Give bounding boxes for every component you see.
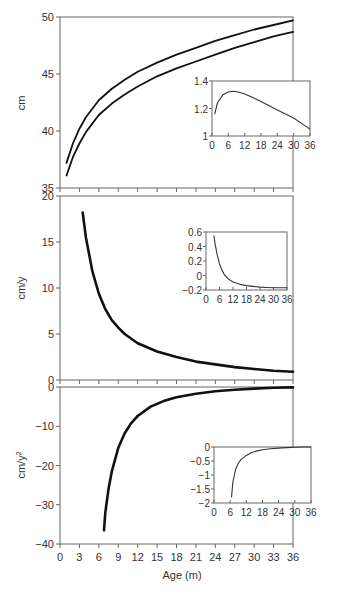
inset-x-tick-label: 6	[227, 507, 233, 518]
inset-y-tick-label: −2	[199, 498, 211, 509]
x-tick-label: 18	[170, 551, 182, 563]
x-tick-label: 6	[96, 551, 102, 563]
inset-x-tick-label: 36	[305, 507, 317, 518]
inset-y-tick-label: 0.2	[188, 256, 202, 267]
inset-y-tick-label: 0	[196, 271, 202, 282]
x-tick-label: 27	[229, 551, 241, 563]
y-tick-label: 50	[42, 11, 54, 23]
y-tick-label: 45	[42, 68, 54, 80]
y-tick-label: 0	[48, 381, 54, 393]
x-tick-label: 24	[209, 551, 221, 563]
x-tick-label: 0	[57, 551, 63, 563]
y-tick-label: −40	[35, 538, 54, 550]
inset-x-tick-label: 18	[255, 140, 267, 151]
inset-x-tick-label: 36	[304, 140, 316, 151]
inset-x-tick-label: 6	[217, 294, 223, 305]
inset-x-tick-label: 36	[281, 294, 293, 305]
x-tick-label: 12	[132, 551, 144, 563]
inset-y-tick-label: 0.4	[188, 242, 202, 253]
x-tick-label: 33	[267, 551, 279, 563]
inset-y-tick-label: −1	[199, 470, 211, 481]
inset-x-tick-label: 24	[254, 294, 266, 305]
inset-y-tick-label: 0.6	[188, 227, 202, 238]
inset-y-tick-label: 1.2	[194, 104, 208, 115]
inset-frame	[212, 81, 310, 136]
inset-y-tick-label: 1.4	[194, 76, 208, 87]
y-tick-label: 10	[42, 282, 54, 294]
middle-ylabel: cm/y	[15, 276, 27, 300]
x-tick-label: 36	[287, 551, 299, 563]
generated-chart-content: 3540455011.21.406121824303605101520−0.20…	[35, 11, 317, 563]
inset-y-tick-label: −1.5	[190, 484, 210, 495]
inset-frame	[206, 232, 287, 290]
x-tick-label: 9	[115, 551, 121, 563]
inset-x-tick-label: 6	[226, 140, 232, 151]
inset-frame	[214, 447, 311, 503]
x-tick-label: 15	[151, 551, 163, 563]
inset-x-tick-label: 0	[211, 507, 217, 518]
inset-x-tick-label: 12	[239, 140, 251, 151]
x-tick-label: 30	[248, 551, 260, 563]
inset-y-tick-label: 1	[202, 131, 208, 142]
inset-x-tick-label: 24	[272, 140, 284, 151]
figure: cm cm/y cm/y2 Age (m) 3540455011.21.4061…	[0, 0, 356, 596]
y-tick-label: −20	[35, 460, 54, 472]
inset-x-tick-label: 0	[209, 140, 215, 151]
bottom-ylabel: cm/y2	[15, 451, 27, 478]
inset-x-tick-label: 12	[227, 294, 239, 305]
x-axis-label: Age (m)	[162, 569, 201, 581]
inset-x-tick-label: 30	[268, 294, 280, 305]
inset-y-tick-label: −0.2	[182, 285, 202, 296]
inset-y-tick-label: −0.5	[190, 456, 210, 467]
y-tick-label: −10	[35, 420, 54, 432]
x-tick-label: 3	[76, 551, 82, 563]
inset-x-tick-label: 24	[273, 507, 285, 518]
inset-x-tick-label: 12	[241, 507, 253, 518]
inset-x-tick-label: 18	[241, 294, 253, 305]
top-ylabel: cm	[15, 96, 27, 111]
inset-x-tick-label: 30	[289, 507, 301, 518]
inset-x-tick-label: 18	[257, 507, 269, 518]
inset-y-tick-label: 0	[204, 442, 210, 453]
y-tick-label: −30	[35, 499, 54, 511]
y-tick-label: 15	[42, 236, 54, 248]
y-tick-label: 5	[48, 328, 54, 340]
x-tick-label: 21	[190, 551, 202, 563]
y-tick-label: 40	[42, 125, 54, 137]
y-tick-label: 20	[42, 190, 54, 202]
inset-x-tick-label: 0	[203, 294, 209, 305]
inset-x-tick-label: 30	[288, 140, 300, 151]
